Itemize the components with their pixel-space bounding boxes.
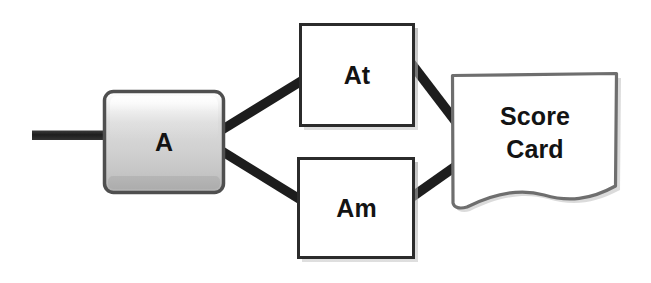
- diagram-canvas: A At Am Score Card: [0, 0, 651, 283]
- edge-a-am: [220, 150, 301, 200]
- node-at[interactable]: [301, 25, 419, 131]
- edge-a-at: [220, 80, 303, 131]
- edge-input-a: [32, 131, 106, 141]
- node-score-card[interactable]: [453, 74, 622, 213]
- node-a[interactable]: [105, 92, 224, 193]
- diagram-graphics: [0, 0, 651, 283]
- node-am[interactable]: [299, 159, 419, 263]
- edge-am-score: [412, 166, 456, 197]
